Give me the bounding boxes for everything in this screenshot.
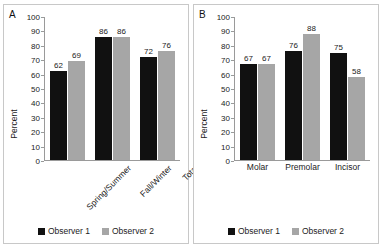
bar-groups-b: 67 67 76 88 75 xyxy=(235,17,370,160)
legend-label: Observer 2 xyxy=(302,226,344,236)
bar-observer1-fall-winter[interactable]: 86 xyxy=(95,37,112,160)
bar-group-molar: 67 67 xyxy=(235,17,280,160)
bar-group-incisor: 75 58 xyxy=(325,17,370,160)
y-tickmark-b-30 xyxy=(231,118,234,119)
y-tickmark-a-40 xyxy=(41,103,44,104)
y-tick-b-60: 60 xyxy=(221,70,230,79)
y-tickmark-a-70 xyxy=(41,60,44,61)
bar-observer2-total[interactable]: 76 xyxy=(158,51,175,160)
y-tick-a-20: 20 xyxy=(31,128,40,137)
y-tick-b-40: 40 xyxy=(221,99,230,108)
y-tick-b-20: 20 xyxy=(221,128,230,137)
legend-swatch-icon xyxy=(292,228,299,235)
legend-label: Observer 1 xyxy=(238,226,280,236)
bar-value-label: 76 xyxy=(162,41,171,50)
bar-observer2-incisor[interactable]: 58 xyxy=(348,77,365,160)
bar-value-label: 72 xyxy=(144,47,153,56)
legend-a: Observer 1 Observer 2 xyxy=(4,226,188,236)
y-tickmark-b-80 xyxy=(231,46,234,47)
y-tick-b-100: 100 xyxy=(217,13,230,22)
bar-value-label: 67 xyxy=(244,54,253,63)
x-category-incisor: Incisor xyxy=(325,162,370,206)
y-tickmark-a-30 xyxy=(41,118,44,119)
bar-observer1-incisor[interactable]: 75 xyxy=(330,53,347,160)
y-axis-label-a: Percent xyxy=(9,79,19,169)
y-tickmark-a-60 xyxy=(41,75,44,76)
bar-groups-a: 62 69 86 86 72 xyxy=(45,17,180,160)
y-tickmark-a-10 xyxy=(41,147,44,148)
bar-value-label: 62 xyxy=(54,61,63,70)
bar-observer1-premolar[interactable]: 76 xyxy=(285,51,302,160)
bar-value-label: 88 xyxy=(307,24,316,33)
y-tickmark-b-70 xyxy=(231,60,234,61)
legend-item-observer2[interactable]: Observer 2 xyxy=(292,226,344,236)
y-tick-b-0: 0 xyxy=(226,157,230,166)
y-tickmark-b-10 xyxy=(231,147,234,148)
legend-label: Observer 2 xyxy=(112,226,154,236)
panel-letter-b: B xyxy=(199,9,206,20)
x-axis-a xyxy=(44,160,180,161)
y-tick-a-90: 90 xyxy=(31,27,40,36)
bar-group-premolar: 76 88 xyxy=(280,17,325,160)
y-tick-a-0: 0 xyxy=(36,157,40,166)
x-category-premolar: Premolar xyxy=(280,162,325,206)
chart-panel-a: A Percent 100 90 80 70 60 50 40 30 20 10 xyxy=(3,4,189,244)
panel-letter-a: A xyxy=(9,9,16,20)
y-tick-b-70: 70 xyxy=(221,56,230,65)
y-tickmark-a-100 xyxy=(41,17,44,18)
y-tickmark-b-20 xyxy=(231,132,234,133)
legend-item-observer1[interactable]: Observer 1 xyxy=(38,226,90,236)
y-tick-b-30: 30 xyxy=(221,113,230,122)
x-category-spring-summer: Spring/Summer xyxy=(45,162,104,206)
y-tick-a-10: 10 xyxy=(31,142,40,151)
bar-value-label: 67 xyxy=(262,54,271,63)
y-tick-b-90: 90 xyxy=(221,27,230,36)
y-tick-b-80: 80 xyxy=(221,41,230,50)
y-tickmark-a-0 xyxy=(41,161,44,162)
bar-value-label: 75 xyxy=(334,43,343,52)
legend-swatch-icon xyxy=(102,228,109,235)
bar-observer2-molar[interactable]: 67 xyxy=(258,64,275,160)
bar-observer1-molar[interactable]: 67 xyxy=(240,64,257,160)
y-tickmark-a-80 xyxy=(41,46,44,47)
bar-observer2-fall-winter[interactable]: 86 xyxy=(113,37,130,160)
legend-item-observer1[interactable]: Observer 1 xyxy=(228,226,280,236)
y-tick-b-10: 10 xyxy=(221,142,230,151)
bar-value-label: 86 xyxy=(117,27,126,36)
y-tickmark-a-20 xyxy=(41,132,44,133)
y-tick-b-50: 50 xyxy=(221,85,230,94)
bar-value-label: 69 xyxy=(72,51,81,60)
legend-item-observer2[interactable]: Observer 2 xyxy=(102,226,154,236)
y-tickmark-a-90 xyxy=(41,31,44,32)
y-tick-a-70: 70 xyxy=(31,56,40,65)
y-tick-a-60: 60 xyxy=(31,70,40,79)
y-tickmark-b-100 xyxy=(231,17,234,18)
x-category-molar: Molar xyxy=(235,162,280,206)
bar-value-label: 86 xyxy=(99,27,108,36)
bar-value-label: 58 xyxy=(352,67,361,76)
y-tickmark-b-0 xyxy=(231,161,234,162)
bar-observer2-premolar[interactable]: 88 xyxy=(303,34,320,160)
x-category-label: Molar xyxy=(247,162,268,172)
y-tick-a-50: 50 xyxy=(31,85,40,94)
chart-panel-b: B Percent 100 90 80 70 60 50 40 30 20 10 xyxy=(193,4,379,244)
y-tick-a-100: 100 xyxy=(27,13,40,22)
x-axis-categories-b: Molar Premolar Incisor xyxy=(235,162,370,206)
legend-swatch-icon xyxy=(38,228,45,235)
bar-observer1-total[interactable]: 72 xyxy=(140,57,157,160)
bar-observer1-spring-summer[interactable]: 62 xyxy=(50,71,67,160)
figure-container: A Percent 100 90 80 70 60 50 40 30 20 10 xyxy=(0,0,382,248)
y-tickmark-a-50 xyxy=(41,89,44,90)
legend-label: Observer 1 xyxy=(48,226,90,236)
y-tick-a-40: 40 xyxy=(31,99,40,108)
legend-swatch-icon xyxy=(228,228,235,235)
bar-group-spring-summer: 62 69 xyxy=(45,17,90,160)
y-tick-a-30: 30 xyxy=(31,113,40,122)
bar-group-fall-winter: 86 86 xyxy=(90,17,135,160)
y-tickmark-b-40 xyxy=(231,103,234,104)
plot-area-a: 100 90 80 70 60 50 40 30 20 10 0 xyxy=(44,17,180,161)
bar-observer2-spring-summer[interactable]: 69 xyxy=(68,61,85,160)
y-axis-label-b: Percent xyxy=(199,79,209,169)
x-axis-b xyxy=(234,160,370,161)
plot-area-b: 100 90 80 70 60 50 40 30 20 10 0 xyxy=(234,17,370,161)
